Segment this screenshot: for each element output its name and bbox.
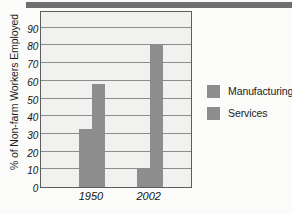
- x-axis-tick-label: 2002: [136, 190, 160, 202]
- bar: [92, 84, 105, 187]
- legend-swatch-icon: [207, 107, 220, 120]
- bar: [150, 44, 163, 187]
- legend-swatch-icon: [207, 85, 220, 98]
- gridline: [41, 133, 191, 134]
- y-axis-tick-label: 10: [16, 165, 38, 176]
- y-axis-tick-label: 20: [16, 147, 38, 158]
- chart-screenshot: % of Non-farm Workers Employed 010203040…: [0, 0, 292, 214]
- gridline: [41, 98, 191, 99]
- gridline: [41, 115, 191, 116]
- y-axis-tick-label: 70: [16, 59, 38, 70]
- y-axis-tick-label: 60: [16, 76, 38, 87]
- plot-area: [40, 11, 192, 188]
- legend-label: Manufacturing: [228, 85, 292, 97]
- chart-legend: ManufacturingServices: [207, 80, 292, 124]
- gridline: [41, 80, 191, 81]
- page-header-band: [26, 2, 292, 8]
- y-axis-tick-labels: 0102030405060708090: [14, 11, 38, 188]
- x-axis-tick-labels: 19502002: [40, 190, 192, 208]
- y-axis-tick-label: 0: [16, 183, 38, 194]
- y-axis-tick-label: 50: [16, 94, 38, 105]
- legend-item: Manufacturing: [207, 80, 292, 102]
- y-axis-tick-label: 90: [16, 23, 38, 34]
- gridline: [41, 168, 191, 169]
- gridline: [41, 62, 191, 63]
- gridline: [41, 151, 191, 152]
- y-axis-tick-label: 80: [16, 41, 38, 52]
- legend-item: Services: [207, 102, 292, 124]
- x-axis-tick-label: 1950: [79, 190, 103, 202]
- y-axis-tick-label: 40: [16, 112, 38, 123]
- bar: [79, 129, 92, 187]
- gridline: [41, 27, 191, 28]
- legend-label: Services: [228, 107, 267, 119]
- gridline: [41, 44, 191, 45]
- bar: [137, 168, 150, 187]
- y-axis-tick-label: 30: [16, 129, 38, 140]
